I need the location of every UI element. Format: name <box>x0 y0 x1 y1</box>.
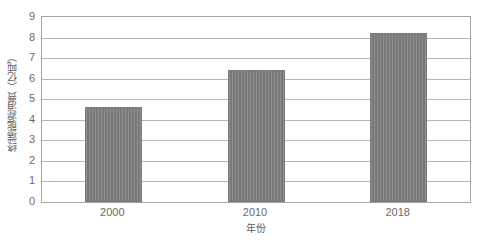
y-axis-tick-label: 6 <box>29 72 35 83</box>
y-axis-tick-label: 4 <box>29 113 35 124</box>
bar-chart-figure: 终端能源消费（亿吨） 0123456789 200020102018 年份 <box>0 0 478 245</box>
y-axis-tick-label: 7 <box>29 52 35 63</box>
y-axis-tick-label: 5 <box>29 93 35 104</box>
x-axis-tick-label: 2018 <box>385 205 409 219</box>
y-axis-tick-label: 9 <box>29 11 35 22</box>
y-axis-tick-label: 2 <box>29 154 35 165</box>
y-axis-title-text: 终端能源消费（亿吨） <box>8 52 18 152</box>
y-axis-tick-labels: 0123456789 <box>22 16 38 203</box>
x-axis-tick-labels: 200020102018 <box>41 205 471 221</box>
x-axis-tick-label: 2010 <box>243 205 267 219</box>
y-axis-tick-label: 8 <box>29 31 35 42</box>
y-axis-tick-label: 1 <box>29 175 35 186</box>
x-axis-tick-label: 2000 <box>100 205 124 219</box>
y-axis-tick-label: 0 <box>29 196 35 207</box>
bars-layer <box>42 17 470 202</box>
y-axis-title: 终端能源消费（亿吨） <box>4 0 22 203</box>
bar <box>370 33 427 202</box>
plot-area <box>41 16 471 203</box>
x-axis-title: 年份 <box>41 222 471 235</box>
bar <box>85 107 142 202</box>
y-axis-tick-label: 3 <box>29 134 35 145</box>
bar <box>228 70 285 202</box>
